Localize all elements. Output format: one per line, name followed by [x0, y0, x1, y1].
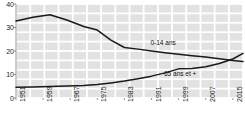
line-chart-plot — [0, 0, 245, 127]
grid-block — [74, 61, 86, 69]
grid-block — [88, 43, 100, 51]
chart-container: 010203040 195119591967197519831991199920… — [0, 0, 245, 127]
grid-block — [59, 90, 71, 98]
grid-block — [74, 5, 86, 13]
grid-block — [102, 52, 114, 60]
grid-block — [88, 52, 100, 60]
grid-block — [116, 33, 128, 41]
grid-block — [230, 71, 242, 79]
grid-block — [31, 90, 43, 98]
grid-block — [230, 33, 242, 41]
grid-block — [216, 33, 228, 41]
grid-block — [230, 43, 242, 51]
grid-block — [31, 52, 43, 60]
grid-block — [45, 5, 57, 13]
grid-block — [173, 24, 185, 32]
grid-block — [145, 61, 157, 69]
grid-block — [230, 14, 242, 22]
series-label-1: 0-14 ans — [150, 39, 175, 46]
x-tick-label: 2007 — [209, 86, 216, 102]
grid-block — [130, 52, 142, 60]
grid-block — [145, 5, 157, 13]
grid-block — [130, 33, 142, 41]
grid-block — [187, 80, 199, 88]
grid-block — [31, 61, 43, 69]
grid-block — [17, 33, 29, 41]
grid-block — [59, 33, 71, 41]
grid-block — [230, 5, 242, 13]
grid-block — [102, 24, 114, 32]
grid-block — [145, 24, 157, 32]
grid-block — [187, 43, 199, 51]
grid-block — [88, 33, 100, 41]
grid-block — [173, 5, 185, 13]
y-tick-label: 40 — [0, 1, 14, 8]
grid-block — [17, 5, 29, 13]
grid-block — [17, 43, 29, 51]
grid-block — [130, 5, 142, 13]
grid-block — [159, 61, 171, 69]
grid-block — [216, 5, 228, 13]
grid-block — [17, 61, 29, 69]
grid-block — [145, 52, 157, 60]
grid-block — [173, 61, 185, 69]
grid-block — [173, 52, 185, 60]
grid-block — [145, 14, 157, 22]
grid-block — [201, 33, 213, 41]
grid-block — [130, 61, 142, 69]
grid-block — [116, 61, 128, 69]
grid-block — [31, 43, 43, 51]
x-tick-label: 1967 — [73, 86, 80, 102]
grid-block — [31, 5, 43, 13]
grid-block — [17, 52, 29, 60]
grid-block — [130, 24, 142, 32]
grid-layer — [17, 5, 242, 97]
grid-block — [230, 61, 242, 69]
grid-block — [17, 24, 29, 32]
grid-block — [216, 24, 228, 32]
grid-block — [116, 52, 128, 60]
grid-block — [102, 43, 114, 51]
grid-block — [31, 24, 43, 32]
grid-block — [31, 33, 43, 41]
grid-block — [102, 5, 114, 13]
grid-block — [45, 33, 57, 41]
grid-block — [201, 5, 213, 13]
grid-block — [187, 24, 199, 32]
grid-block — [31, 71, 43, 79]
grid-block — [216, 43, 228, 51]
grid-block — [201, 14, 213, 22]
grid-block — [159, 5, 171, 13]
grid-block — [216, 90, 228, 98]
grid-block — [74, 43, 86, 51]
x-tick-label: 1999 — [182, 86, 189, 102]
grid-block — [45, 52, 57, 60]
grid-block — [88, 90, 100, 98]
grid-block — [187, 5, 199, 13]
grid-block — [216, 14, 228, 22]
grid-block — [74, 33, 86, 41]
grid-block — [230, 24, 242, 32]
grid-block — [88, 71, 100, 79]
grid-block — [102, 71, 114, 79]
grid-block — [187, 33, 199, 41]
grid-block — [116, 71, 128, 79]
grid-block — [74, 52, 86, 60]
x-tick-label: 1991 — [155, 86, 162, 102]
grid-block — [173, 14, 185, 22]
grid-block — [187, 90, 199, 98]
grid-block — [159, 14, 171, 22]
grid-block — [74, 14, 86, 22]
grid-block — [59, 5, 71, 13]
grid-block — [116, 24, 128, 32]
grid-block — [59, 52, 71, 60]
grid-block — [74, 71, 86, 79]
x-tick-label: 1975 — [100, 86, 107, 102]
grid-block — [45, 43, 57, 51]
grid-block — [201, 43, 213, 51]
x-tick-label: 1959 — [46, 86, 53, 102]
grid-block — [45, 71, 57, 79]
grid-block — [216, 80, 228, 88]
grid-block — [201, 71, 213, 79]
grid-block — [88, 14, 100, 22]
